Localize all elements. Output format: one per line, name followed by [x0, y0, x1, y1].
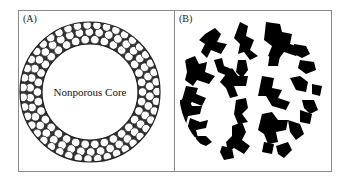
panel-label-a: (A): [23, 13, 37, 24]
porous-particle: [180, 22, 322, 160]
core-label: Nonporous Core: [42, 86, 138, 98]
panel-label-b: (B): [179, 13, 192, 24]
